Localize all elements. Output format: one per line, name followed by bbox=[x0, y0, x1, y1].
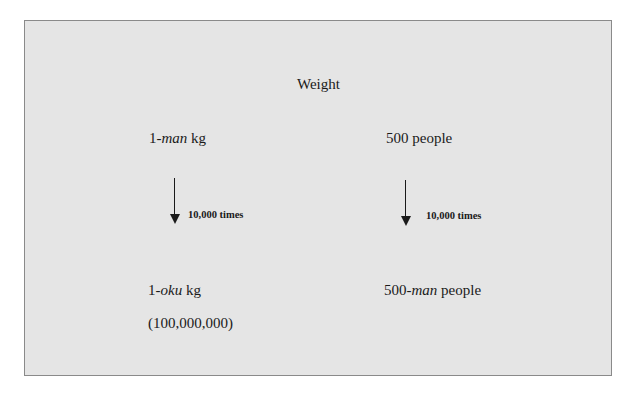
left-bottom-note: (100,000,000) bbox=[148, 316, 233, 331]
right-bottom-label: 500-man people bbox=[384, 283, 481, 298]
diagram-title: Weight bbox=[297, 77, 340, 92]
left-bottom-label: 1-oku kg bbox=[148, 283, 201, 298]
left-down-arrow-icon bbox=[170, 178, 180, 225]
right-down-arrow-icon bbox=[401, 180, 411, 227]
left-arrow-label: 10,000 times bbox=[188, 210, 243, 221]
right-arrow-label: 10,000 times bbox=[426, 211, 481, 222]
diagram-panel bbox=[24, 20, 612, 376]
left-top-label: 1-man kg bbox=[149, 131, 206, 146]
right-top-label: 500 people bbox=[386, 131, 452, 146]
